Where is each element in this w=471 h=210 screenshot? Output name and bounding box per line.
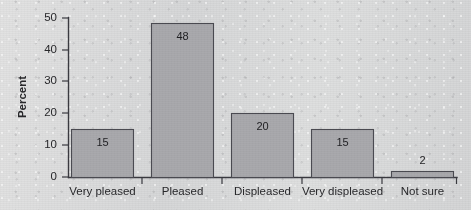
bar-value-very-pleased: 15 — [96, 136, 108, 148]
y-tick-label-20: 20 — [44, 106, 57, 118]
y-tick-label-50: 50 — [44, 11, 57, 23]
y-tick-label-30: 30 — [44, 74, 57, 86]
x-tick-label-very-pleased: Very pleased — [69, 185, 136, 197]
y-tick-label-40: 40 — [44, 43, 57, 55]
y-axis-title: Percent — [16, 76, 28, 118]
y-tick-label-0: 0 — [51, 170, 57, 182]
bar-value-displeased: 20 — [256, 120, 268, 132]
percent-bar-chart: Percent 50 40 30 20 10 0 15 Very pleased… — [0, 0, 471, 210]
x-tick-label-displeased: Displeased — [234, 185, 291, 197]
x-tick-label-very-displeased: Very displeased — [302, 185, 383, 197]
x-tick-label-pleased: Pleased — [162, 185, 204, 197]
bar-value-very-displeased: 15 — [336, 136, 348, 148]
bar-not-sure[interactable] — [392, 172, 454, 178]
bar-pleased[interactable] — [152, 24, 214, 178]
x-tick-label-not-sure: Not sure — [401, 185, 444, 197]
bar-value-not-sure: 2 — [419, 154, 425, 166]
y-tick-label-10: 10 — [44, 138, 57, 150]
bar-value-pleased: 48 — [176, 30, 188, 42]
chart-page: Percent 50 40 30 20 10 0 15 Very pleased… — [0, 0, 471, 210]
